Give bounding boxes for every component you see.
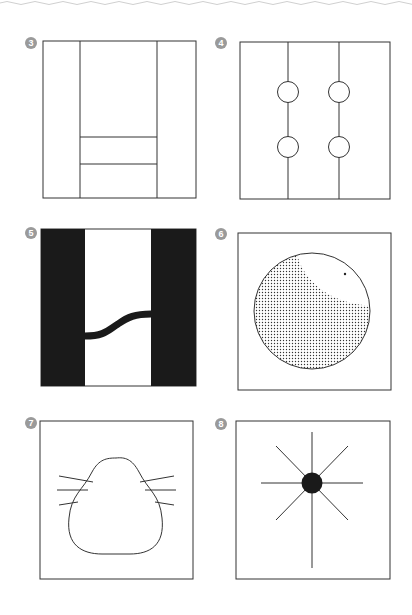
diagram-8-figure: [0, 0, 412, 615]
